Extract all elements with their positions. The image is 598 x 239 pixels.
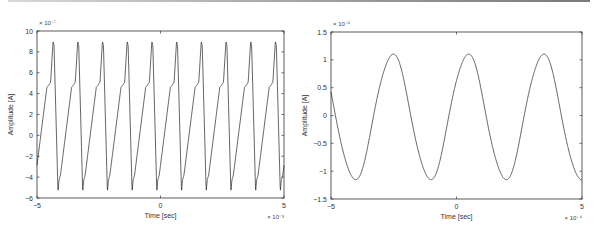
data-line — [331, 54, 582, 180]
x-tick-label: 5 — [580, 203, 584, 210]
plot-frame — [331, 32, 582, 199]
y-tick-label: −1 — [319, 168, 327, 175]
chart-1: −6−4−20246810−505Time [sec]Amplitude [A]… — [7, 20, 286, 220]
y-axis-label: Amplitude [A] — [301, 95, 309, 137]
y-tick-label: 1.5 — [317, 29, 327, 36]
x-tick-label: −5 — [327, 203, 335, 210]
figure: −6−4−20246810−505Time [sec]Amplitude [A]… — [0, 0, 598, 239]
x-axis-label: Time [sec] — [144, 212, 176, 220]
y-tick-label: −2 — [25, 153, 33, 160]
y-tick-label: 6 — [29, 69, 33, 76]
y-tick-label: 0 — [323, 112, 327, 119]
y-tick-label: −1.5 — [313, 196, 327, 203]
x-tick-label: 0 — [455, 203, 459, 210]
x-multiplier: × 10⁻³ — [267, 214, 284, 220]
y-axis-label: Amplitude [A] — [7, 94, 15, 136]
y-tick-label: 8 — [29, 48, 33, 55]
y-tick-label: −0.5 — [313, 140, 327, 147]
y-multiplier: × 10⁻⁷ — [39, 20, 56, 26]
y-tick-label: 1 — [323, 56, 327, 63]
plot-frame — [37, 31, 284, 198]
x-tick-label: 0 — [159, 202, 163, 209]
y-tick-label: 2 — [29, 111, 33, 118]
x-multiplier: × 10⁻⁴ — [565, 215, 583, 221]
y-tick-label: −4 — [25, 174, 33, 181]
x-axis-label: Time [sec] — [440, 213, 472, 221]
y-tick-label: 10 — [25, 28, 33, 35]
y-tick-label: −6 — [25, 195, 33, 202]
x-tick-label: 5 — [282, 202, 286, 209]
x-tick-label: −5 — [33, 202, 41, 209]
y-multiplier: × 10⁻⁵ — [333, 21, 351, 27]
data-line — [37, 42, 284, 190]
y-tick-label: 0.5 — [317, 84, 327, 91]
y-tick-label: 0 — [29, 132, 33, 139]
chart-2: −1.5−1−0.500.511.5−505Time [sec]Amplitud… — [301, 21, 584, 221]
y-tick-label: 4 — [29, 90, 33, 97]
